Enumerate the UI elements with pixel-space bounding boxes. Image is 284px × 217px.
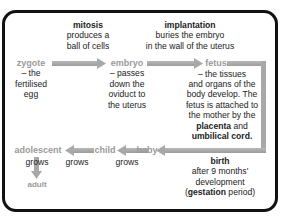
birth-line-2: development [178,177,262,187]
zygote-label: zygote [10,58,52,68]
birth-title: birth [178,156,262,166]
zygote-desc-1: – the [10,68,52,78]
arrow-embryo-to-fetus-icon [147,58,203,69]
process-birth: birth after 9 months' development (gesta… [178,156,262,198]
arrow-zygote-to-embryo-icon [52,58,106,69]
embryo-label: embryo [104,58,150,68]
baby-label: baby [135,145,159,155]
embryo-desc-2: down the [104,79,150,89]
and-text: and [233,121,247,131]
placenta-term: placenta [196,121,231,131]
birth-line-1: after 9 months' [178,166,262,176]
implantation-title: implantation [125,20,255,30]
adolescent-label: adolescent [12,145,64,155]
umbilical-cord-term: umbilical cord. [182,131,262,141]
stage-fetus-label: fetus [204,58,228,68]
stage-child: child [93,145,117,155]
fetus-desc-3: body develop. The [182,89,262,99]
mitosis-line-2: ball of cells [48,41,128,51]
process-implantation: implantation buries the embryo in the wa… [125,20,255,51]
embryo-desc-1: – passes [104,68,150,78]
stage-fetus-desc: – the tissues and organs of the body dev… [182,69,262,142]
fetus-desc-4: fetus is attached to [182,100,262,110]
implantation-line-2: in the wall of the uterus [125,41,255,51]
fetus-desc-6: placenta and [182,121,262,131]
fetus-desc-5: the mother by the [182,110,262,120]
fetus-desc-1: – the tissues [182,69,262,79]
process-mitosis: mitosis produces a ball of cells [48,20,128,51]
birth-line-3: (gestation period) [178,187,262,197]
implantation-line-1: buries the embryo [125,30,255,40]
adolescent-desc: grows [22,157,52,167]
baby-desc: grows [112,157,142,167]
fetus-desc-2: and organs of the [182,79,262,89]
adult-label: adult [24,180,50,190]
stage-adolescent: adolescent [12,145,64,155]
gestation-term: gestation [188,187,226,197]
stage-adult: adult [24,180,50,190]
arrow-child-to-adolescent-icon [65,145,94,156]
embryo-desc-4: the uterus [104,100,150,110]
mitosis-line-1: produces a [48,30,128,40]
embryo-desc-3: oviduct to [104,89,150,99]
zygote-desc-3: egg [10,89,52,99]
fetus-label: fetus [204,58,228,68]
stage-zygote: zygote – the fertilised egg [10,58,52,100]
zygote-desc-2: fertilised [10,79,52,89]
period-text: period) [226,187,255,197]
stage-baby: baby [135,145,159,155]
mitosis-title: mitosis [48,20,128,30]
stage-embryo: embryo – passes down the oviduct to the … [104,58,150,110]
child-desc: grows [62,157,92,167]
child-label: child [93,145,117,155]
